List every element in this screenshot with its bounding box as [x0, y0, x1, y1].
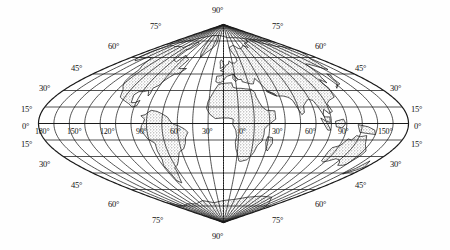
label-lon-60e: 60° [305, 128, 316, 136]
world-map-figure: 90° 90° 75° 60° 45° 30° 15° 0° 15° 30° 4… [0, 0, 450, 250]
label-lat-left-45s: 45° [71, 181, 82, 190]
label-lat-left-45: 45° [71, 64, 82, 73]
label-lat-left-15: 15° [21, 105, 32, 114]
label-lat-right-0: 0° [414, 122, 421, 131]
label-lat-left-0: 0° [22, 122, 29, 131]
label-lat-right-60: 60° [315, 42, 326, 51]
label-lat-left-75s: 75° [152, 216, 163, 225]
label-lat-right-45: 45° [355, 64, 366, 73]
label-lon-180w: 180° [35, 128, 49, 136]
graticule-lines [39, 25, 409, 223]
label-lon-150w: 150° [67, 128, 81, 136]
label-lat-left-30s: 30° [39, 160, 50, 169]
label-lat-right-15: 15° [411, 105, 422, 114]
label-pole-south: 90° [212, 232, 223, 241]
label-lon-150e: 150° [378, 128, 392, 136]
label-lat-right-75: 75° [272, 22, 283, 31]
map-canvas [0, 0, 450, 250]
label-lat-right-30: 30° [390, 84, 401, 93]
label-lat-right-15s: 15° [411, 140, 422, 149]
label-lon-90w: 90° [136, 128, 147, 136]
label-pole-north: 90° [212, 6, 223, 15]
label-lat-left-60: 60° [108, 42, 119, 51]
label-lon-30e: 30° [272, 128, 283, 136]
label-lat-right-45s: 45° [355, 181, 366, 190]
label-lat-left-75: 75° [150, 22, 161, 31]
label-lon-0: 0° [239, 128, 246, 136]
label-lat-right-75s: 75° [272, 216, 283, 225]
label-lat-left-30: 30° [39, 84, 50, 93]
label-lat-right-60s: 60° [315, 200, 326, 209]
label-lat-left-15s: 15° [21, 140, 32, 149]
label-lat-right-30s: 30° [390, 160, 401, 169]
label-lon-30w: 30° [202, 128, 213, 136]
label-lon-90e: 90° [338, 128, 349, 136]
label-lon-120w: 120° [100, 128, 114, 136]
label-lon-60w: 60° [170, 128, 181, 136]
label-lat-left-60s: 60° [108, 200, 119, 209]
